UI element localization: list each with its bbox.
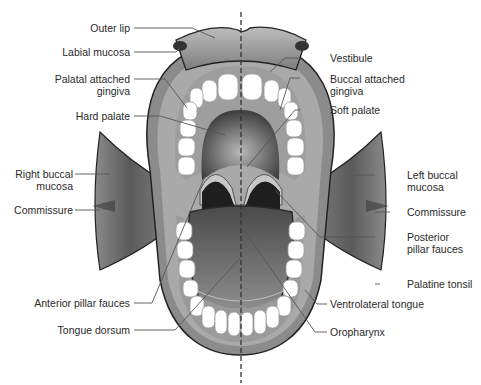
label-palatal-attached-gingiva-line1: Palatal attached	[55, 73, 130, 85]
label-ventrolateral-tongue: Ventrolateral tongue	[330, 298, 424, 310]
label-soft-palate: Soft palate	[330, 104, 380, 116]
label-oropharynx: Oropharynx	[330, 326, 385, 338]
label-posterior-pillar-fauces-line1: Posterior	[407, 231, 449, 243]
label-buccal-attached-gingiva-line1: Buccal attached	[330, 73, 405, 85]
label-commissure-left: Commissure	[407, 206, 466, 218]
label-anterior-pillar-fauces: Anterior pillar fauces	[34, 297, 130, 309]
label-commissure-right: Commissure	[14, 204, 73, 216]
label-right-buccal-mucosa-line1: Right buccal	[15, 168, 73, 180]
label-posterior-pillar-fauces-line2: pillar fauces	[407, 243, 463, 255]
label-tongue-dorsum: Tongue dorsum	[58, 324, 130, 336]
label-left-buccal-mucosa-line1: Left buccal	[407, 169, 458, 181]
label-hard-palate: Hard palate	[76, 110, 130, 122]
oral-cavity-diagram: Outer lip Labial mucosa Palatal attached…	[0, 0, 481, 385]
label-palatine-tonsil: Palatine tonsil	[407, 278, 472, 290]
label-left-buccal-mucosa-line2: mucosa	[407, 181, 444, 193]
label-right-buccal-mucosa-line2: mucosa	[36, 180, 73, 192]
label-vestibule: Vestibule	[330, 52, 373, 64]
label-palatal-attached-gingiva-line2: gingiva	[97, 85, 130, 97]
label-buccal-attached-gingiva-line2: gingiva	[330, 85, 363, 97]
label-outer-lip: Outer lip	[90, 22, 130, 34]
label-labial-mucosa: Labial mucosa	[62, 46, 130, 58]
